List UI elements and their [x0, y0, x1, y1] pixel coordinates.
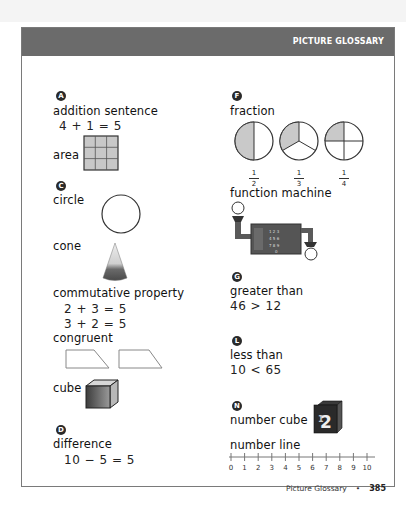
- section-letter-a: A: [56, 91, 66, 101]
- area-grid-icon: [83, 135, 119, 171]
- section-letter-l: L: [232, 336, 242, 346]
- page-header: PICTURE GLOSSARY: [22, 28, 394, 56]
- cube-shape-icon: [84, 378, 120, 410]
- section-letter-c: C: [56, 181, 66, 191]
- greater-than-example: 46 > 12: [230, 299, 282, 313]
- fraction-label-quarter: 14: [337, 169, 351, 188]
- tick-9: 9: [348, 464, 358, 472]
- term-function-machine: function machine: [230, 186, 332, 200]
- footer-label: Picture Glossary: [286, 484, 347, 493]
- term-cube: cube: [53, 381, 81, 395]
- commutative-example-2: 3 + 2 = 5: [64, 317, 127, 331]
- svg-text:4 5 6: 4 5 6: [269, 236, 280, 241]
- congruent-trapezoids-icon: [64, 348, 164, 370]
- tick-10: 10: [362, 464, 372, 472]
- term-number-cube: number cube: [230, 413, 308, 427]
- term-less-than: less than: [230, 348, 283, 362]
- tick-3: 3: [267, 464, 277, 472]
- section-letter-d: D: [56, 425, 66, 435]
- term-area: area: [53, 148, 79, 162]
- tick-6: 6: [308, 464, 318, 472]
- difference-example: 10 − 5 = 5: [64, 453, 135, 467]
- term-commutative-property: commutative property: [53, 286, 184, 300]
- svg-text:7 8 9: 7 8 9: [269, 243, 280, 248]
- section-letter-f: F: [232, 91, 242, 101]
- tick-5: 5: [294, 464, 304, 472]
- cone-shape-icon: [100, 241, 130, 283]
- term-cone: cone: [53, 239, 81, 253]
- svg-text:1: 1: [318, 415, 324, 424]
- term-greater-than: greater than: [230, 284, 303, 298]
- fraction-half-icon: [233, 120, 275, 162]
- tick-2: 2: [253, 464, 263, 472]
- tick-0: 0: [226, 464, 236, 472]
- term-addition-sentence: addition sentence: [53, 104, 158, 118]
- tick-4: 4: [280, 464, 290, 472]
- tick-8: 8: [335, 464, 345, 472]
- less-than-example: 10 < 65: [230, 363, 282, 377]
- section-letter-n: N: [232, 401, 242, 411]
- term-congruent: congruent: [53, 331, 113, 345]
- commutative-example-1: 2 + 3 = 5: [64, 302, 127, 316]
- term-fraction: fraction: [230, 104, 275, 118]
- glossary-page: PICTURE GLOSSARY A addition sentence 4 +…: [21, 27, 395, 487]
- page-number: 385: [369, 484, 386, 493]
- tick-7: 7: [321, 464, 331, 472]
- number-cube-icon: 2 1: [312, 400, 344, 434]
- page-header-title: PICTURE GLOSSARY: [293, 37, 384, 46]
- addition-sentence-example: 4 + 1 = 5: [59, 119, 122, 133]
- circle-shape-icon: [100, 193, 142, 235]
- term-difference: difference: [53, 437, 112, 451]
- number-line-icon: [227, 450, 377, 464]
- footer-separator: •: [356, 484, 360, 493]
- page-footer: Picture Glossary • 385: [286, 476, 386, 495]
- term-circle: circle: [53, 193, 84, 207]
- function-machine-icon: 1 2 34 5 67 8 90: [229, 200, 319, 262]
- section-letter-g: G: [232, 272, 242, 282]
- tick-1: 1: [240, 464, 250, 472]
- svg-text:1 2 3: 1 2 3: [269, 229, 280, 234]
- fraction-quarter-icon: [323, 120, 365, 162]
- previous-page-bleed: [0, 0, 406, 22]
- fraction-third-icon: [278, 120, 320, 162]
